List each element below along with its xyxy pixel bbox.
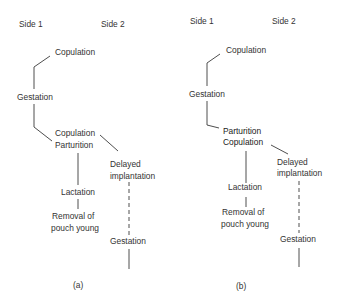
copulation-mid-node-b: Copulation — [223, 137, 263, 147]
removal-node-line1-b: Removal of — [222, 207, 264, 217]
copulation-to-gestation-line-a — [34, 56, 50, 89]
gestation-to-parturition-line-b — [207, 101, 219, 128]
copulation-to-gestation-line-b — [207, 54, 220, 86]
connector-lines — [0, 0, 339, 308]
side-2-label-a: Side 2 — [101, 19, 125, 29]
copulation-to-delayed-line-b — [271, 145, 288, 154]
side-1-label-b: Side 1 — [190, 16, 214, 26]
side-1-label-a: Side 1 — [19, 19, 43, 29]
gestation-node-b: Gestation — [189, 89, 225, 99]
implantation-node-b: implantation — [277, 168, 322, 178]
copulation-top-node-a: Copulation — [55, 47, 95, 57]
implantation-node-a: implantation — [110, 171, 155, 181]
removal-node-line2-a: pouch young — [51, 223, 99, 233]
delayed-node-b: Delayed — [277, 157, 308, 167]
gestation-2-node-b: Gestation — [280, 234, 316, 244]
copulation-mid-node-a: Copulation — [55, 128, 95, 138]
caption-a: (a) — [73, 280, 83, 290]
reproductive-cycle-diagram: Side 1 Side 2 Copulation Gestation Copul… — [0, 0, 339, 308]
copulation-to-delayed-line-a — [100, 135, 118, 151]
lactation-node-b: Lactation — [228, 182, 262, 192]
removal-node-line2-b: pouch young — [221, 219, 269, 229]
removal-node-line1-a: Removal of — [52, 211, 94, 221]
parturition-node-a: Parturition — [55, 140, 93, 150]
parturition-node-b: Parturition — [223, 126, 261, 136]
gestation-2-node-a: Gestation — [110, 236, 146, 246]
copulation-top-node-b: Copulation — [226, 45, 266, 55]
caption-b: (b) — [236, 281, 246, 291]
delayed-node-a: Delayed — [110, 159, 141, 169]
gestation-to-parturition-line-a — [34, 104, 52, 141]
lactation-node-a: Lactation — [61, 187, 95, 197]
side-2-label-b: Side 2 — [272, 16, 296, 26]
gestation-node-a: Gestation — [17, 92, 53, 102]
